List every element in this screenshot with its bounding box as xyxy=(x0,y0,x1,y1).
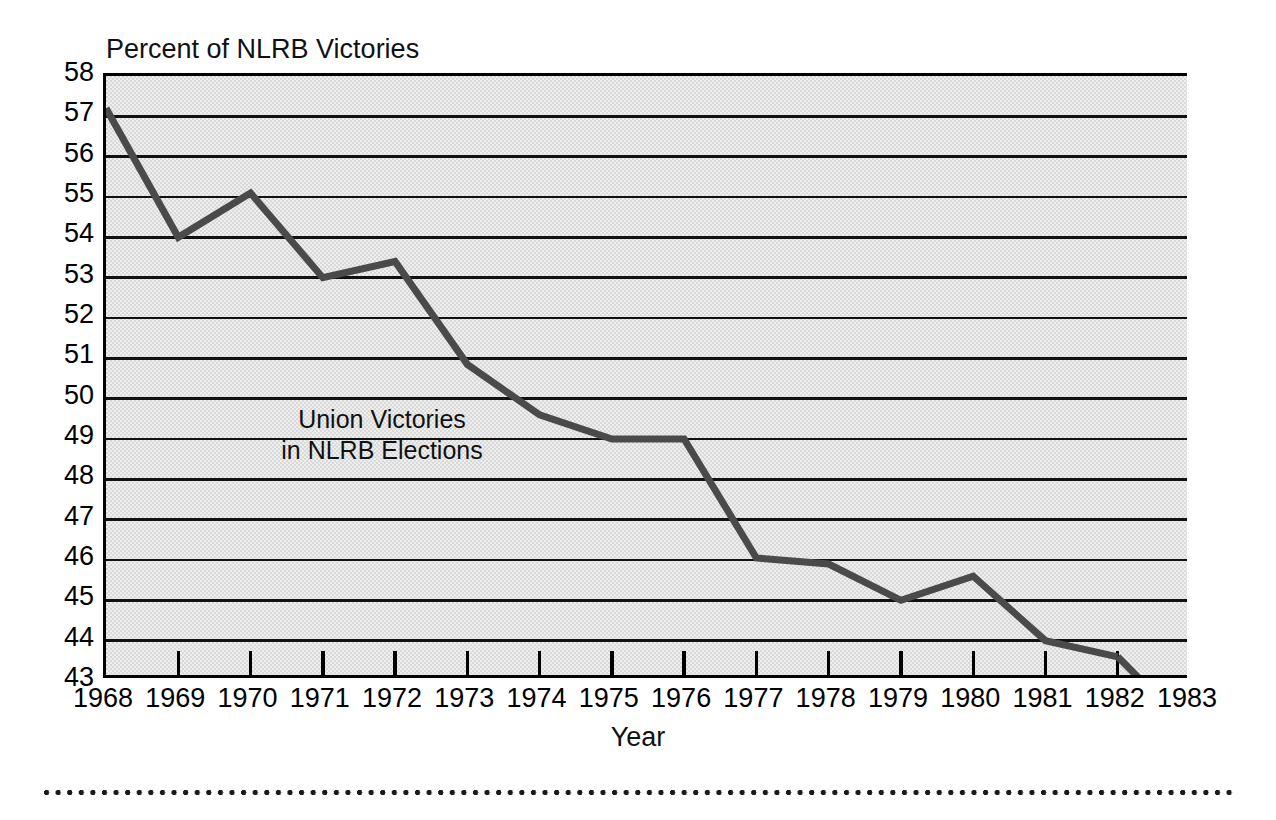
x-tick-label: 1981 xyxy=(1012,683,1072,713)
x-tick-label: 1969 xyxy=(145,683,205,713)
y-tick-label: 50 xyxy=(0,382,94,409)
x-tick-label: 1978 xyxy=(796,683,856,713)
data-series-line xyxy=(106,76,1187,678)
y-tick-label: 54 xyxy=(0,220,94,247)
y-tick-label: 45 xyxy=(0,583,94,610)
x-tick-label: 1982 xyxy=(1085,683,1145,713)
y-tick-label: 58 xyxy=(0,59,94,86)
x-tick-label: 1973 xyxy=(434,683,494,713)
x-tick-label: 1974 xyxy=(507,683,567,713)
x-tick-label: 1970 xyxy=(217,683,277,713)
y-tick-label: 48 xyxy=(0,462,94,489)
x-tick-label: 1975 xyxy=(579,683,639,713)
x-tick-label: 1980 xyxy=(940,683,1000,713)
x-tick-label: 1977 xyxy=(723,683,783,713)
nlrb-victories-line-chart: Percent of NLRB Victories 58575655545352… xyxy=(0,0,1276,820)
x-axis-tick-labels: 1968196919701971197219731974197519761977… xyxy=(0,683,1276,717)
chart-title: Percent of NLRB Victories xyxy=(106,34,419,64)
y-tick-label: 49 xyxy=(0,422,94,449)
y-tick-label: 56 xyxy=(0,140,94,167)
x-axis-title: Year xyxy=(0,722,1276,752)
x-tick-label: 1971 xyxy=(290,683,350,713)
y-tick-label: 44 xyxy=(0,624,94,651)
y-tick-label: 53 xyxy=(0,261,94,288)
y-tick-label: 47 xyxy=(0,503,94,530)
x-tick-label: 1983 xyxy=(1157,683,1217,713)
x-tick-label: 1976 xyxy=(651,683,711,713)
y-tick-label: 57 xyxy=(0,99,94,126)
bottom-dotted-rule xyxy=(43,789,1233,796)
x-tick-label: 1979 xyxy=(868,683,928,713)
plot-area: Union Victories in NLRB Elections xyxy=(103,73,1187,678)
x-tick-label: 1968 xyxy=(73,683,133,713)
y-tick-label: 46 xyxy=(0,543,94,570)
y-tick-label: 52 xyxy=(0,301,94,328)
x-tick-label: 1972 xyxy=(362,683,422,713)
y-tick-label: 51 xyxy=(0,341,94,368)
y-tick-label: 55 xyxy=(0,180,94,207)
